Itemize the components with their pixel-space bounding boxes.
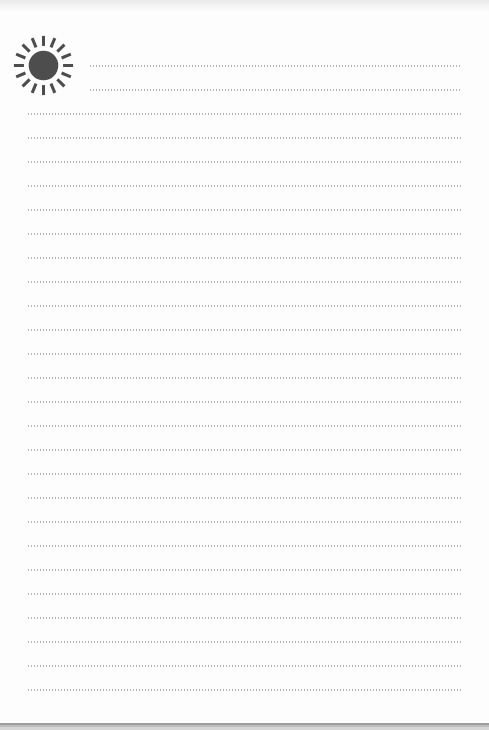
ruled-line <box>28 641 462 643</box>
ruled-line <box>28 185 462 187</box>
ruled-line <box>28 665 462 667</box>
page-bottom-edge <box>0 722 489 730</box>
ruled-line <box>28 617 462 619</box>
ruled-line <box>28 281 462 283</box>
ruled-line <box>28 425 462 427</box>
ruled-line <box>28 521 462 523</box>
ruled-line <box>28 497 462 499</box>
ruled-line <box>28 473 462 475</box>
ruled-line <box>28 449 462 451</box>
ruled-line <box>28 569 462 571</box>
notepad-page <box>0 0 489 730</box>
ruled-line <box>90 89 462 91</box>
ruled-line <box>28 209 462 211</box>
sun-icon-shapes <box>14 36 73 95</box>
sun-icon <box>12 34 75 97</box>
ruled-line <box>28 593 462 595</box>
page-top-edge <box>0 0 489 12</box>
ruled-line <box>28 353 462 355</box>
ruled-line <box>28 137 462 139</box>
ruled-line <box>90 65 462 67</box>
ruled-line <box>28 545 462 547</box>
ruled-line <box>28 233 462 235</box>
ruled-line <box>28 305 462 307</box>
ruled-line <box>28 161 462 163</box>
ruled-line <box>28 329 462 331</box>
ruled-line <box>28 257 462 259</box>
ruled-line <box>28 401 462 403</box>
ruled-line <box>28 689 462 691</box>
ruled-line <box>28 377 462 379</box>
ruled-line <box>28 113 462 115</box>
